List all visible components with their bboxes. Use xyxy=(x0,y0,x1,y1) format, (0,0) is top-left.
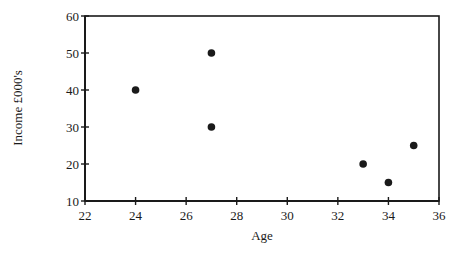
y-axis-title: Income £000's xyxy=(10,70,25,146)
scatter-chart: 2224262830323436 102030405060 Age Income… xyxy=(0,0,457,256)
y-tick-label: 30 xyxy=(66,120,79,135)
y-tick-label: 40 xyxy=(66,83,79,98)
data-point xyxy=(410,142,418,150)
x-tick-label: 34 xyxy=(382,208,396,223)
data-points xyxy=(132,49,418,186)
data-point xyxy=(208,123,216,131)
data-point xyxy=(208,49,216,57)
x-tick-label: 24 xyxy=(129,208,143,223)
y-tick-label: 10 xyxy=(66,194,79,209)
x-tick-label: 36 xyxy=(433,208,447,223)
y-tick-label: 20 xyxy=(66,157,79,172)
data-point xyxy=(359,160,367,168)
y-tick-label: 60 xyxy=(66,9,79,24)
x-tick-label: 22 xyxy=(79,208,92,223)
data-point xyxy=(385,179,393,187)
plot-border xyxy=(85,16,439,201)
x-tick-label: 28 xyxy=(230,208,243,223)
plot-frame xyxy=(85,16,439,201)
x-tick-label: 26 xyxy=(180,208,194,223)
x-axis-title: Age xyxy=(251,228,273,243)
data-point xyxy=(132,86,140,94)
x-tick-label: 30 xyxy=(281,208,294,223)
y-tick-label: 50 xyxy=(66,46,79,61)
x-tick-label: 32 xyxy=(331,208,344,223)
